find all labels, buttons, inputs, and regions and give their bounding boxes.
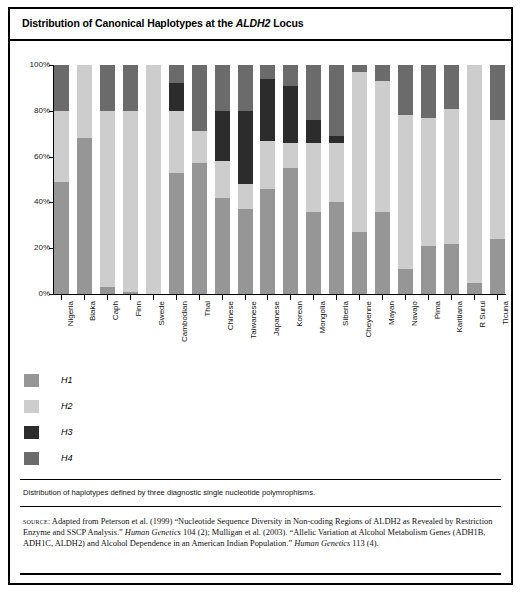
bar-column[interactable]: [467, 65, 482, 294]
bar-segment-h2: [306, 143, 321, 212]
bar-segment-h4: [421, 65, 436, 118]
x-axis-tick-label: Karitiana: [455, 301, 464, 333]
bar-segment-h3: [260, 79, 275, 141]
bar-column[interactable]: [329, 65, 344, 294]
bar-segment-h3: [306, 120, 321, 143]
x-axis-tick-mark: [169, 295, 184, 300]
x-axis-tick-mark: [100, 295, 115, 300]
bar-column[interactable]: [100, 65, 115, 294]
x-axis-label-slot: Pima: [421, 301, 436, 353]
x-axis-tick-label: Cheyenne: [364, 301, 373, 337]
bar-segment-h1: [215, 198, 230, 294]
x-axis-label-slot: Thai: [192, 301, 207, 353]
bar-column[interactable]: [146, 65, 161, 294]
source-journal-2: Human Genetics: [294, 539, 350, 548]
chart-plot-wrapper: 0%20%40%60%80%100% NigeriaBiakaCaphFinnS…: [10, 41, 511, 351]
bar-segment-h1: [329, 202, 344, 294]
bar-segment-h2: [238, 184, 253, 209]
legend-label: H2: [61, 401, 73, 411]
bar-column[interactable]: [54, 65, 69, 294]
x-axis-tick-mark: [421, 295, 436, 300]
bar-column[interactable]: [444, 65, 459, 294]
bar-column[interactable]: [260, 65, 275, 294]
x-axis-tick-label: Finn: [134, 301, 143, 317]
x-axis-tick-mark: [123, 295, 138, 300]
x-axis-tick-mark: [375, 295, 390, 300]
y-axis-tick-label: 40%: [34, 198, 50, 206]
bar-segment-h4: [169, 65, 184, 83]
bar-column[interactable]: [421, 65, 436, 294]
x-axis-tick-label: Caph: [111, 301, 120, 320]
source-text-3: 113 (4).: [350, 539, 378, 548]
title-suffix: Locus: [270, 17, 303, 29]
bar-segment-h4: [260, 65, 275, 79]
figure-frame: Distribution of Canonical Haplotypes at …: [8, 7, 513, 585]
y-axis-tick-label: 80%: [34, 107, 50, 115]
x-axis-label-slot: Siberia: [329, 301, 344, 353]
legend-item-h2[interactable]: H2: [24, 393, 184, 419]
bar-column[interactable]: [352, 65, 367, 294]
bar-segment-h2: [352, 72, 367, 232]
bar-segment-h2: [123, 111, 138, 292]
y-axis-tick-mark: [49, 111, 53, 112]
x-axis-label-slot: Cheyenne: [352, 301, 367, 353]
x-axis-label-slot: Korean: [283, 301, 298, 353]
title-prefix: Distribution of Canonical Haplotypes at …: [22, 17, 236, 29]
x-axis-label-slot: Taiwanese: [238, 301, 253, 353]
x-axis-tick-mark: [146, 295, 161, 300]
bar-segment-h1: [490, 239, 505, 294]
bar-segment-h1: [467, 283, 482, 294]
x-axis-tick-label: Chinese: [226, 301, 235, 330]
x-axis-tick-mark: [215, 295, 230, 300]
y-axis-tick-mark: [49, 65, 53, 66]
bar-column[interactable]: [238, 65, 253, 294]
source-label: source: [23, 517, 48, 526]
x-axis-tick-label: Thai: [203, 301, 212, 317]
bar-segment-h4: [306, 65, 321, 120]
legend-item-h1[interactable]: H1: [24, 367, 184, 393]
bar-segment-h2: [260, 141, 275, 189]
bar-segment-h3: [215, 111, 230, 161]
legend-swatch-h1: [24, 374, 39, 387]
bar-segment-h3: [283, 86, 298, 143]
bar-column[interactable]: [215, 65, 230, 294]
bar-segment-h4: [238, 65, 253, 111]
x-axis-tick-mark: [329, 295, 344, 300]
bar-segment-h2: [329, 143, 344, 203]
x-axis-tick-label: Swede: [157, 301, 166, 325]
bar-segment-h2: [490, 120, 505, 239]
bar-segment-h3: [169, 83, 184, 110]
x-axis-label-slot: Mongolia: [306, 301, 321, 353]
x-axis-label-slot: Ticuna: [490, 301, 505, 353]
legend-item-h4[interactable]: H4: [24, 445, 184, 471]
x-axis-tick-mark: [490, 295, 505, 300]
bar-column[interactable]: [123, 65, 138, 294]
bar-segment-h4: [352, 65, 367, 72]
bar-segment-h4: [375, 65, 390, 81]
bar-segment-h3: [238, 111, 253, 184]
bar-segment-h1: [421, 246, 436, 294]
bar-segment-h1: [260, 189, 275, 294]
bar-segment-h4: [123, 65, 138, 111]
x-axis-tick-mark: [352, 295, 367, 300]
x-axis-label-slot: Caph: [100, 301, 115, 353]
bar-column[interactable]: [77, 65, 92, 294]
chart-legend: H1H2H3H4: [24, 367, 184, 471]
bar-segment-h4: [54, 65, 69, 111]
page-title: Distribution of Canonical Haplotypes at …: [22, 17, 511, 29]
bar-column[interactable]: [398, 65, 413, 294]
bar-column[interactable]: [192, 65, 207, 294]
bar-segment-h1: [352, 232, 367, 294]
x-axis-tick-label: Cambodian: [180, 301, 189, 342]
bar-column[interactable]: [306, 65, 321, 294]
title-bar: Distribution of Canonical Haplotypes at …: [10, 9, 511, 39]
bar-column[interactable]: [490, 65, 505, 294]
legend-item-h3[interactable]: H3: [24, 419, 184, 445]
x-axis-label-slot: Chinese: [215, 301, 230, 353]
bar-segment-h4: [490, 65, 505, 120]
bar-column[interactable]: [375, 65, 390, 294]
y-axis-tick-label: 100%: [30, 61, 50, 69]
bar-segment-h1: [238, 209, 253, 294]
bar-column[interactable]: [169, 65, 184, 294]
bar-column[interactable]: [283, 65, 298, 294]
